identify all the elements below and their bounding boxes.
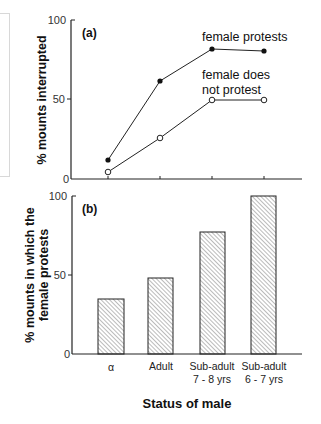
line-female-no-protest — [108, 100, 264, 172]
x-axis-label: Status of male — [143, 396, 232, 411]
tick-0-b: 0 — [64, 348, 70, 360]
series-label-no-protest-2: not protest — [202, 83, 262, 97]
category-sub-adult-7-8-line2: 7 - 8 yrs — [193, 373, 231, 385]
category-adult: Adult — [149, 360, 173, 372]
point-open — [105, 169, 111, 175]
point-open — [157, 135, 163, 141]
bar-sub-adult-7-8 — [200, 232, 225, 354]
category-sub-adult-7-8-line1: Sub-adult — [190, 360, 235, 372]
tick-0-a: 0 — [63, 173, 69, 185]
category-sub-adult-6-7-line1: Sub-adult — [242, 360, 287, 372]
panel-label-b: (b) — [82, 202, 97, 216]
point-filled — [157, 78, 162, 83]
point-open — [261, 97, 267, 103]
tick-100-a: 100 — [48, 14, 66, 26]
point-filled — [261, 48, 266, 53]
y-axis-label-a: % mounts interrupted — [35, 35, 49, 164]
series-label-no-protest-1: female does — [202, 68, 270, 82]
point-filled — [105, 157, 110, 162]
point-open — [209, 97, 215, 103]
y-axis-label-b-line1: % mounts in which the — [23, 207, 37, 342]
tick-50-b: 50 — [54, 269, 66, 281]
y-axis-label-b-line2: female protests — [37, 229, 51, 321]
line-female-protests — [108, 49, 264, 160]
panel-b: 100 50 0 (b) % mounts in which the femal… — [23, 190, 302, 411]
series-label-protests: female protests — [202, 30, 287, 44]
tick-100-b: 100 — [49, 190, 67, 202]
bar-alpha — [98, 299, 124, 354]
tick-50-a: 50 — [53, 93, 65, 105]
bar-adult — [148, 278, 173, 354]
point-filled — [209, 46, 214, 51]
panel-label-a: (a) — [82, 26, 97, 40]
bar-sub-adult-6-7 — [251, 196, 276, 354]
category-sub-adult-6-7-line2: 6 - 7 yrs — [245, 373, 283, 385]
category-alpha: α — [108, 361, 114, 373]
panel-a: 100 50 0 (a) % mounts interrupted female… — [35, 14, 302, 185]
figure: 100 50 0 (a) % mounts interrupted female… — [0, 0, 321, 424]
